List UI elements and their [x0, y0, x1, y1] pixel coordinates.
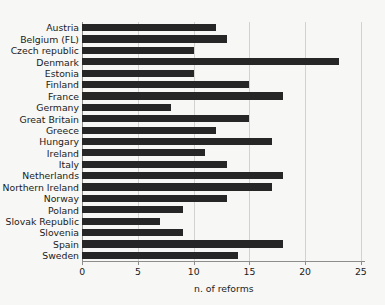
- bar: [82, 24, 216, 31]
- y-axis-label: Italy: [59, 159, 79, 170]
- x-tick-mark: [305, 261, 306, 265]
- chart-figure: AustriaBelgium (FL)Czech republicDenmark…: [0, 0, 385, 305]
- x-tick-mark: [249, 261, 250, 265]
- x-tick-label: 10: [188, 266, 200, 277]
- bar-row: [82, 252, 365, 259]
- bar: [82, 240, 283, 247]
- bar: [82, 206, 182, 213]
- bar-row: [82, 138, 365, 145]
- bar-row: [82, 206, 365, 213]
- bar-row: [82, 70, 365, 77]
- bar-row: [82, 24, 365, 31]
- bar: [82, 70, 193, 77]
- bar-row: [82, 149, 365, 156]
- y-axis-label: Netherlands: [22, 170, 79, 181]
- x-tick-label: 5: [135, 266, 141, 277]
- bar: [82, 92, 283, 99]
- bar: [82, 138, 271, 145]
- y-axis-label: Spain: [53, 239, 79, 250]
- bar: [82, 161, 227, 168]
- y-axis-category-labels: AustriaBelgium (FL)Czech republicDenmark…: [0, 22, 79, 261]
- x-axis-line: [82, 261, 365, 262]
- y-axis-label: Slovak Republic: [6, 216, 79, 227]
- y-axis-label: Ireland: [47, 148, 79, 159]
- bar-row: [82, 161, 365, 168]
- y-axis-label: Finland: [46, 79, 79, 90]
- bar: [82, 195, 227, 202]
- bar-row: [82, 218, 365, 225]
- y-axis-label: Estonia: [45, 68, 79, 79]
- x-tick-label: 20: [299, 266, 311, 277]
- bar: [82, 58, 338, 65]
- x-tick-mark: [361, 261, 362, 265]
- x-tick-label: 25: [355, 266, 367, 277]
- bar: [82, 252, 238, 259]
- x-axis-title: n. of reforms: [82, 283, 365, 294]
- bar-row: [82, 115, 365, 122]
- y-axis-label: France: [48, 91, 79, 102]
- x-tick-mark: [138, 261, 139, 265]
- y-axis-label: Northern Ireland: [3, 182, 79, 193]
- y-axis-label: Sweden: [42, 250, 79, 261]
- bar: [82, 115, 249, 122]
- bar: [82, 183, 271, 190]
- bar: [82, 47, 193, 54]
- y-axis-label: Poland: [48, 205, 79, 216]
- bar-row: [82, 240, 365, 247]
- bar-row: [82, 172, 365, 179]
- y-axis-label: Slovenia: [39, 227, 79, 238]
- x-tick-mark: [82, 261, 83, 265]
- bar-row: [82, 127, 365, 134]
- y-axis-label: Great Britain: [20, 114, 79, 125]
- x-tick-mark: [194, 261, 195, 265]
- y-axis-label: Hungary: [39, 136, 79, 147]
- bar-row: [82, 195, 365, 202]
- y-axis-label: Austria: [46, 22, 79, 33]
- bar: [82, 218, 160, 225]
- y-axis-label: Belgium (FL): [20, 34, 79, 45]
- y-axis-label: Denmark: [36, 57, 79, 68]
- bar: [82, 149, 205, 156]
- bar-row: [82, 92, 365, 99]
- x-tick-label: 15: [244, 266, 256, 277]
- bar-row: [82, 183, 365, 190]
- bar: [82, 229, 182, 236]
- bar: [82, 35, 227, 42]
- bar-row: [82, 104, 365, 111]
- bar: [82, 172, 283, 179]
- bar-row: [82, 81, 365, 88]
- x-tick-label: 0: [79, 266, 85, 277]
- plot-area: [82, 22, 365, 261]
- bar: [82, 127, 216, 134]
- y-axis-label: Greece: [46, 125, 79, 136]
- bar-row: [82, 35, 365, 42]
- y-axis-label: Czech republic: [11, 45, 79, 56]
- bar: [82, 81, 249, 88]
- y-axis-label: Germany: [36, 102, 79, 113]
- bar: [82, 104, 171, 111]
- bar-row: [82, 47, 365, 54]
- bar-row: [82, 229, 365, 236]
- bar-row: [82, 58, 365, 65]
- y-axis-label: Norway: [44, 193, 79, 204]
